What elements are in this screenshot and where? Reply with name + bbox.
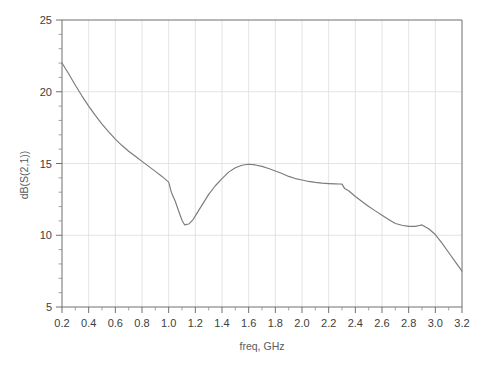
x-tick-label: 3.0 xyxy=(428,317,443,329)
x-tick-label: 2.8 xyxy=(401,317,416,329)
x-tick-label: 0.6 xyxy=(108,317,123,329)
y-tick-label: 20 xyxy=(40,86,52,98)
y-tick-label: 10 xyxy=(40,229,52,241)
x-tick-label: 0.4 xyxy=(81,317,96,329)
x-tick-label: 0.8 xyxy=(134,317,149,329)
x-tick-label: 1.4 xyxy=(214,317,229,329)
chart-container: 0.20.40.60.81.01.21.41.61.82.02.22.42.62… xyxy=(0,0,486,367)
x-tick-label: 2.2 xyxy=(321,317,336,329)
x-tick-label: 3.2 xyxy=(454,317,469,329)
x-tick-label: 2.4 xyxy=(348,317,363,329)
line-chart: 0.20.40.60.81.01.21.41.61.82.02.22.42.62… xyxy=(0,0,486,367)
x-axis-title: freq, GHz xyxy=(240,340,285,352)
x-tick-label: 1.6 xyxy=(241,317,256,329)
x-tick-label: 0.2 xyxy=(54,317,69,329)
y-tick-label: 5 xyxy=(46,301,52,313)
y-tick-label: 25 xyxy=(40,14,52,26)
x-tick-label: 1.0 xyxy=(161,317,176,329)
y-axis-title: dB(S(2,1)) xyxy=(18,151,30,199)
x-tick-label: 2.6 xyxy=(374,317,389,329)
chart-background xyxy=(0,0,486,367)
x-tick-label: 1.8 xyxy=(268,317,283,329)
y-tick-label: 15 xyxy=(40,158,52,170)
x-tick-label: 1.2 xyxy=(188,317,203,329)
x-tick-label: 2.0 xyxy=(294,317,309,329)
